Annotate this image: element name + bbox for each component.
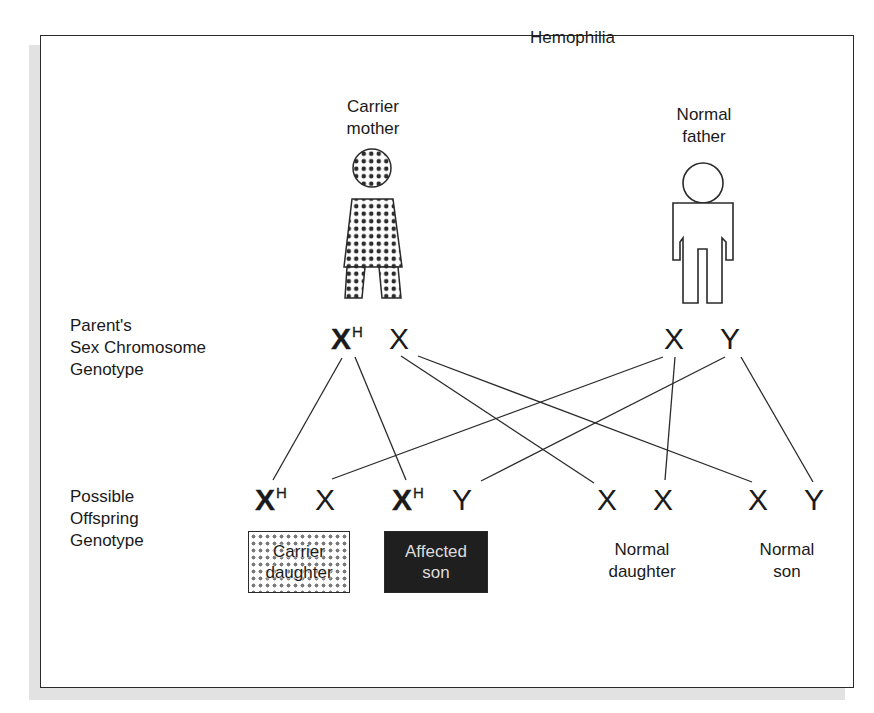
offspring-normal-daughter-x2: X	[653, 485, 673, 515]
mother-label-line1: Carrier	[347, 96, 400, 118]
offspring-carrier-daughter-x: X	[315, 485, 335, 515]
father-chromosome-y: Y	[720, 324, 740, 354]
affected-son-box: Affected son	[384, 531, 488, 593]
line-mother-xh-to-carrier-daughter	[273, 358, 342, 480]
row-label-line: Genotype	[70, 530, 144, 552]
mother-chromosome-x: X	[389, 324, 409, 354]
carrier-daughter-label-line2: daughter	[265, 562, 332, 583]
offspring-normal-son-x: X	[748, 485, 768, 515]
line-mother-x-to-normal-son	[418, 356, 752, 482]
offspring-affected-son-y: Y	[452, 485, 472, 515]
mother-label-line2: mother	[347, 118, 400, 140]
superscript-h: H	[413, 484, 424, 501]
carrier-daughter-label-line1: Carrier	[265, 541, 332, 562]
offspring-carrier-daughter-xh: XH	[255, 485, 287, 515]
line-father-x-to-carrier-daughter	[332, 357, 663, 479]
affected-son-label-line2: son	[405, 562, 467, 583]
row-label-line: Parent's	[70, 315, 206, 337]
mother-chromosome-xh: XH	[331, 324, 363, 354]
line-father-x-to-normal-daughter	[665, 357, 675, 480]
affected-son-label-line1: Affected	[405, 541, 467, 562]
offspring-normal-son-y: Y	[804, 485, 824, 515]
offspring-affected-son-xh: XH	[392, 485, 424, 515]
mother-label: Carrier mother	[347, 96, 400, 140]
line-father-y-to-affected-son	[481, 357, 725, 481]
inheritance-lines	[273, 356, 813, 483]
father-chromosome-x: X	[664, 324, 684, 354]
superscript-h: H	[352, 323, 363, 340]
row-label-line: Genotype	[70, 359, 206, 381]
normal-son-label-line1: Normal	[760, 539, 815, 561]
normal-son-label-line2: son	[760, 561, 815, 583]
offspring-normal-daughter-x1: X	[597, 485, 617, 515]
carrier-daughter-box: Carrier daughter	[248, 531, 350, 593]
parent-genotype-row-label: Parent's Sex Chromosome Genotype	[70, 315, 206, 381]
father-label-line2: father	[677, 126, 732, 148]
superscript-h: H	[276, 484, 287, 501]
mother-figure-icon	[344, 149, 402, 298]
normal-son-label: Normal son	[760, 539, 815, 583]
normal-daughter-label-line1: Normal	[608, 539, 675, 561]
normal-daughter-label: Normal daughter	[608, 539, 675, 583]
row-label-line: Sex Chromosome	[70, 337, 206, 359]
row-label-line: Possible	[70, 486, 144, 508]
diagram-title: Hemophilia	[530, 29, 615, 46]
line-mother-x-to-normal-daughter	[401, 356, 594, 483]
normal-daughter-label-line2: daughter	[608, 561, 675, 583]
father-label: Normal father	[677, 104, 732, 148]
line-father-y-to-normal-son	[741, 357, 813, 482]
offspring-genotype-row-label: Possible Offspring Genotype	[70, 486, 144, 552]
row-label-line: Offspring	[70, 508, 144, 530]
father-figure-icon	[673, 163, 733, 303]
father-label-line1: Normal	[677, 104, 732, 126]
